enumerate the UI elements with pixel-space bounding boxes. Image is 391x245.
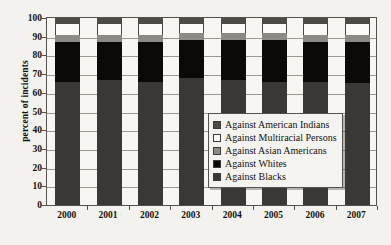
bar-segment (303, 42, 328, 81)
bar-segment (179, 18, 204, 24)
legend-swatch-icon (213, 173, 221, 181)
y-tick-label: 40 (6, 125, 42, 135)
legend-label: Against Multiracial Persons (225, 132, 337, 144)
bar-segment (97, 35, 122, 42)
bar-segment (262, 40, 287, 81)
bar-segment (179, 24, 204, 33)
bar-segment (345, 35, 370, 42)
legend-label: Against Whites (225, 158, 287, 170)
y-tick-label: 0 (6, 200, 42, 210)
bar-segment (262, 18, 287, 24)
bar-segment (303, 35, 328, 42)
y-tick-label: 70 (6, 69, 42, 79)
legend-item: Against Asian Americans (213, 144, 337, 157)
x-tick-mark (377, 206, 378, 210)
bar-segment (55, 24, 80, 35)
y-tick-label: 60 (6, 88, 42, 98)
bar-2003 (179, 18, 204, 205)
legend-item: Against Whites (213, 157, 337, 170)
bar-segment (97, 24, 122, 35)
y-tick-label: 50 (6, 107, 42, 117)
bar-segment (138, 18, 163, 24)
bar-segment (55, 35, 80, 42)
bar-segment (97, 18, 122, 24)
bar-segment (303, 18, 328, 24)
y-tick-label: 90 (6, 32, 42, 42)
bar-segment (138, 24, 163, 35)
bar-segment (179, 33, 204, 40)
legend-item: Against Blacks (213, 170, 337, 183)
chart-root: percent of incidents 0102030405060708090… (0, 0, 391, 245)
bar-segment (55, 18, 80, 24)
bar-segment (55, 42, 80, 81)
y-tick-label: 10 (6, 181, 42, 191)
bar-segment (138, 35, 163, 42)
bar-segment (221, 40, 246, 79)
bar-segment (345, 24, 370, 35)
bar-segment (262, 33, 287, 40)
legend-item: Against American Indians (213, 118, 337, 131)
bar-2001 (97, 18, 122, 205)
legend-swatch-icon (213, 160, 221, 168)
legend-swatch-icon (213, 147, 221, 155)
y-tick-label: 20 (6, 163, 42, 173)
legend-swatch-icon (213, 134, 221, 142)
y-tick-label: 80 (6, 50, 42, 60)
y-tick-label: 30 (6, 144, 42, 154)
bar-segment (138, 82, 163, 205)
bar-segment (221, 33, 246, 40)
bar-segment (97, 80, 122, 205)
bar-2000 (55, 18, 80, 205)
x-tick-label: 2007 (331, 210, 381, 220)
legend-label: Against American Indians (225, 119, 329, 131)
legend-label: Against Blacks (225, 171, 286, 183)
bar-segment (55, 82, 80, 205)
bar-segment (138, 42, 163, 81)
bar-segment (179, 78, 204, 205)
bar-segment (262, 24, 287, 33)
bar-segment (345, 83, 370, 205)
bar-segment (345, 18, 370, 24)
bar-segment (97, 42, 122, 79)
legend: Against American IndiansAgainst Multirac… (208, 113, 343, 188)
bar-segment (179, 40, 204, 77)
bar-segment (345, 42, 370, 83)
legend-swatch-icon (213, 121, 221, 129)
y-tick-label: 100 (6, 13, 42, 23)
bar-segment (303, 24, 328, 35)
legend-label: Against Asian Americans (225, 145, 327, 157)
bar-2007 (345, 18, 370, 205)
bar-segment (221, 24, 246, 33)
bar-segment (221, 18, 246, 24)
legend-item: Against Multiracial Persons (213, 131, 337, 144)
bar-2002 (138, 18, 163, 205)
